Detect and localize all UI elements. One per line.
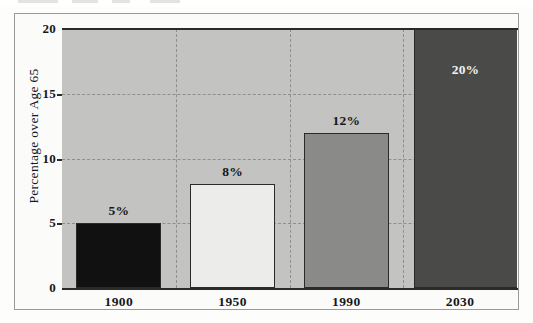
scan-edge-artifact — [0, 0, 533, 7]
bar-1950 — [190, 184, 275, 288]
y-tick-mark — [57, 94, 62, 96]
x-tick-label-2030: 2030 — [403, 295, 517, 309]
x-tick-label-1900: 1900 — [62, 295, 176, 309]
bar-value-label-1950: 8% — [190, 165, 275, 179]
bar-1900 — [76, 223, 161, 288]
bar-value-label-1990: 12% — [304, 114, 389, 128]
gridline-vertical — [176, 29, 177, 288]
bar-value-label-1900: 5% — [76, 204, 161, 218]
bar-value-label-2030: 20% — [414, 63, 517, 77]
bar-1990 — [304, 133, 389, 288]
x-tick-label-1950: 1950 — [176, 295, 290, 309]
y-tick-mark — [57, 223, 62, 225]
y-tick-label-0: 0 — [4, 281, 56, 294]
x-tick-label-1990: 1990 — [290, 295, 404, 309]
gridline-vertical — [290, 29, 291, 288]
figure-container: 05101520 Percentage over Age 65 19001950… — [0, 0, 533, 323]
y-tick-mark — [57, 159, 62, 161]
gridline-vertical — [403, 29, 404, 288]
axis-x-line — [62, 288, 518, 290]
axis-top-line — [62, 28, 518, 30]
y-axis-title: Percentage over Age 65 — [26, 26, 42, 246]
